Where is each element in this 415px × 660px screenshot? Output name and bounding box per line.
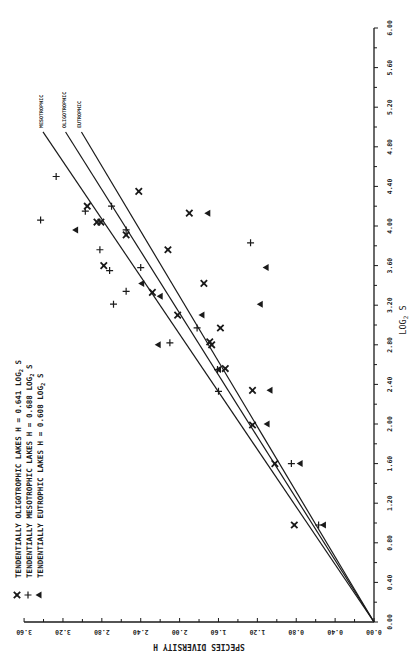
triangle-shape bbox=[72, 226, 78, 233]
triangle-shape bbox=[266, 387, 272, 394]
log2s-tick-label: 0.40 bbox=[386, 574, 394, 590]
x-center bbox=[86, 205, 89, 208]
legend-label: TENDENTIALLY EUTROPHIC LAKES H = 0.608 L… bbox=[36, 373, 46, 578]
plus-marker-icon bbox=[53, 173, 60, 180]
triangle-shape bbox=[297, 460, 303, 467]
x-marker-icon bbox=[249, 387, 255, 393]
plus-marker-icon bbox=[110, 301, 117, 308]
x-marker-icon bbox=[101, 262, 107, 268]
triangle-shape bbox=[138, 280, 144, 287]
plus-stroke bbox=[37, 217, 44, 224]
triangle-marker-icon bbox=[138, 280, 144, 287]
log2s-tick-label: 4.40 bbox=[386, 178, 394, 194]
plus-marker-icon bbox=[137, 264, 144, 271]
log2s-tick-label: 5.20 bbox=[386, 99, 394, 115]
h-tick-label: 0.40 bbox=[327, 628, 343, 636]
regression-lines: MESOTROPHICOLIGOTROPHICEUTROPHIC bbox=[38, 92, 374, 622]
log2s-tick-label: 6.00 bbox=[386, 20, 394, 36]
triangle-shape bbox=[264, 421, 270, 428]
triangle-marker-icon bbox=[263, 264, 269, 271]
triangle-marker-icon bbox=[320, 521, 326, 528]
triangle-shape bbox=[36, 592, 42, 599]
x-center bbox=[167, 248, 170, 251]
x-center bbox=[274, 462, 277, 465]
plus-marker-icon bbox=[25, 592, 32, 599]
log2s-tick-label: 4.80 bbox=[386, 139, 394, 155]
x-marker-icon bbox=[291, 522, 297, 528]
log2s-var: S bbox=[398, 305, 408, 315]
x-center bbox=[125, 234, 128, 237]
series-+ bbox=[37, 173, 322, 528]
x-center bbox=[102, 264, 105, 267]
triangle-marker-icon bbox=[198, 312, 204, 319]
triangle-shape bbox=[155, 341, 161, 348]
plus-stroke bbox=[288, 460, 295, 467]
x-center bbox=[188, 212, 191, 215]
triangle-marker-icon bbox=[204, 210, 210, 217]
x-center bbox=[251, 389, 254, 392]
plus-marker-icon bbox=[166, 339, 173, 346]
triangle-marker-icon bbox=[266, 387, 272, 394]
log2s-tick-label: 5.60 bbox=[386, 60, 394, 76]
x-marker-icon bbox=[217, 325, 223, 331]
log2s-tick-label: 2.80 bbox=[386, 337, 394, 353]
h-axis-title: SPECIES DIVERSITY H bbox=[153, 642, 245, 651]
x-center bbox=[208, 341, 211, 344]
x-center bbox=[293, 524, 296, 527]
triangle-marker-icon bbox=[72, 226, 78, 233]
legend-label: TENDENTIALLY MESOTROPHIC LAKES H = 0.688… bbox=[25, 364, 35, 578]
x-marker-icon bbox=[136, 188, 142, 194]
h-tick-label: 2.40 bbox=[133, 628, 149, 636]
axes: 0.000.400.801.201.602.002.402.803.203.60… bbox=[16, 20, 409, 651]
x-center bbox=[224, 367, 227, 370]
x-marker-icon bbox=[186, 210, 192, 216]
plus-stroke bbox=[53, 173, 60, 180]
triangle-shape bbox=[257, 301, 263, 308]
x-center bbox=[100, 221, 103, 224]
log2s-tick-label: 2.40 bbox=[386, 376, 394, 392]
triangle-marker-icon bbox=[264, 421, 270, 428]
plus-marker-icon bbox=[288, 460, 295, 467]
plus-stroke bbox=[166, 339, 173, 346]
scatter-chart: 0.000.400.801.201.602.002.402.803.203.60… bbox=[0, 0, 415, 660]
regression-line-eutrophic bbox=[81, 132, 374, 622]
x-center bbox=[203, 282, 206, 285]
h-tick-label: 1.60 bbox=[211, 628, 227, 636]
h-tick-label: 2.80 bbox=[94, 628, 110, 636]
legend-var: S bbox=[14, 359, 23, 369]
log2s-tick-label: 1.60 bbox=[386, 456, 394, 472]
x-marker-icon bbox=[174, 312, 180, 318]
triangle-shape bbox=[263, 264, 269, 271]
plus-marker-icon bbox=[123, 288, 130, 295]
x-marker-icon bbox=[94, 219, 100, 225]
x-center bbox=[251, 424, 254, 427]
plus-stroke bbox=[247, 239, 254, 246]
triangle-marker-icon bbox=[155, 341, 161, 348]
triangle-shape bbox=[204, 210, 210, 217]
plus-stroke bbox=[123, 288, 130, 295]
plus-marker-icon bbox=[82, 208, 89, 215]
line-label-eutrophic: EUTROPHIC bbox=[76, 101, 82, 128]
log2s-tick-label: 3.20 bbox=[386, 297, 394, 313]
x-marker-icon bbox=[272, 460, 278, 466]
triangle-marker-icon bbox=[36, 592, 42, 599]
plus-stroke bbox=[96, 246, 103, 253]
legend: TENDENTIALLY OLIGOTROPHIC LAKES H = 0.64… bbox=[14, 359, 46, 598]
plus-marker-icon bbox=[96, 246, 103, 253]
triangle-marker-icon bbox=[297, 460, 303, 467]
line-label-mesotrophic: MESOTROPHIC bbox=[38, 95, 44, 128]
x-center bbox=[151, 291, 154, 294]
legend-var: S bbox=[36, 373, 45, 383]
x-marker-icon bbox=[14, 592, 20, 598]
h-tick-label: 0.00 bbox=[366, 628, 382, 636]
x-marker-icon bbox=[165, 247, 171, 253]
legend-label: TENDENTIALLY OLIGOTROPHIC LAKES H = 0.64… bbox=[14, 359, 24, 578]
log2s-tick-label: 3.60 bbox=[386, 258, 394, 274]
triangle-shape bbox=[198, 312, 204, 319]
log2s-tick-label: 1.20 bbox=[386, 495, 394, 511]
plus-stroke bbox=[137, 264, 144, 271]
regression-line-mesotrophic bbox=[43, 132, 374, 622]
data-points bbox=[37, 173, 326, 528]
plus-marker-icon bbox=[247, 239, 254, 246]
plus-stroke bbox=[82, 208, 89, 215]
